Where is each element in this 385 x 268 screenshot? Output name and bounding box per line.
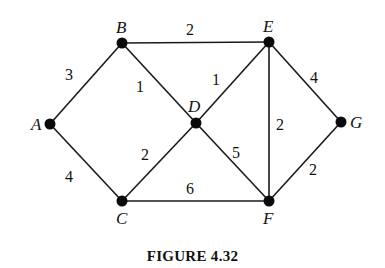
edge-b-d bbox=[122, 43, 196, 123]
edge-weight-b-d: 1 bbox=[136, 78, 144, 95]
node-label-e: E bbox=[262, 17, 274, 36]
node-label-g: G bbox=[350, 113, 362, 132]
node-label-b: B bbox=[116, 18, 127, 37]
weighted-graph: 34212156242ABCDEFG bbox=[0, 0, 385, 268]
node-a bbox=[45, 119, 56, 130]
edge-weight-e-f: 2 bbox=[276, 116, 284, 133]
node-d bbox=[191, 118, 202, 129]
node-label-f: F bbox=[262, 209, 274, 228]
node-b bbox=[117, 38, 128, 49]
edge-a-c bbox=[50, 124, 122, 201]
node-label-d: D bbox=[187, 97, 201, 116]
node-e bbox=[264, 37, 275, 48]
edge-e-g bbox=[269, 42, 341, 122]
edge-a-b bbox=[50, 43, 122, 124]
edge-d-f bbox=[196, 123, 269, 201]
edge-weight-d-f: 5 bbox=[232, 144, 240, 161]
node-label-a: A bbox=[30, 115, 42, 134]
node-g bbox=[336, 117, 347, 128]
node-f bbox=[264, 196, 275, 207]
edge-c-d bbox=[122, 123, 196, 201]
node-c bbox=[117, 196, 128, 207]
edge-weight-a-b: 3 bbox=[65, 66, 73, 83]
edge-weight-b-e: 2 bbox=[186, 21, 194, 38]
edge-weight-c-d: 2 bbox=[141, 146, 149, 163]
edge-weight-a-c: 4 bbox=[65, 168, 73, 185]
edge-weight-c-f: 6 bbox=[186, 180, 194, 197]
edge-b-e bbox=[122, 42, 269, 43]
figure-caption: FIGURE 4.32 bbox=[0, 248, 385, 265]
node-label-c: C bbox=[116, 209, 128, 228]
edge-weight-f-g: 2 bbox=[309, 161, 317, 178]
edge-f-g bbox=[269, 122, 341, 201]
edge-weight-d-e: 1 bbox=[212, 71, 220, 88]
edge-weight-e-g: 4 bbox=[310, 69, 318, 86]
edge-d-e bbox=[196, 42, 269, 123]
